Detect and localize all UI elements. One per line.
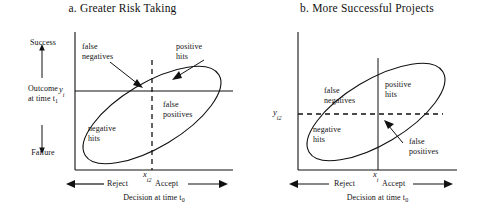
panel-a-label-positive-hits: positive hits [176,42,202,61]
panel-a-reject-label: Reject [107,179,128,189]
panel-b: b. More Successful Projects [245,0,489,219]
panel-a-label-false-negatives: false negatives [82,42,113,61]
panel-b-x-tick-label: xi [373,169,378,181]
panel-b-plot [245,0,489,219]
panel-a-x-axis-title: Decision at time t0 [75,193,233,204]
panel-a-x-tick-sub: i2 [147,177,152,183]
panel-a-y-axis-title-line1: Outcome [28,84,58,93]
panel-b-arrow-false-positives [384,120,403,143]
panel-a-x-tick-label: xi2 [143,169,151,181]
panel-a-success-label: Success [20,38,66,48]
panel-a: a. Greater Risk Taking [0,0,245,219]
panel-a-y-axis-title-line2: at time t [28,94,55,103]
panel-a-x-axis-title-sub: 0 [182,197,185,203]
panel-a-arrow-false-negatives [110,62,143,88]
panel-b-x-axis-title-text: Decision at time t [347,193,405,202]
panel-b-accept-label: Accept [382,179,405,189]
panel-b-label-false-negatives: false negatives [324,86,355,105]
panel-b-label-false-positives: false positives [409,137,438,156]
panel-b-ellipse [293,44,460,179]
panel-b-label-positive-hits: positive hits [385,80,411,99]
panel-b-reject-label: Reject [334,179,355,189]
panel-a-x-axis-title-text: Decision at time t [123,193,181,202]
panel-a-y-tick-label: yi [59,84,64,96]
panel-a-label-negative-hits: negative hits [88,124,116,143]
panel-b-y-tick-label: yi2 [273,107,281,119]
panel-b-label-negative-hits: negative hits [313,125,341,144]
panel-b-x-axis-title-sub: 0 [405,197,408,203]
panel-b-x-direction-arrows [289,180,453,188]
figure-root: a. Greater Risk Taking [0,0,489,219]
panel-a-failure-label: Failure [20,148,66,158]
panel-b-y-tick-sub: i2 [277,115,282,121]
panel-a-label-false-positives: false positives [163,100,192,119]
panel-a-y-axis-title-sub: 1 [55,98,58,104]
panel-a-accept-label: Accept [155,179,178,189]
panel-b-x-axis-title: Decision at time t0 [298,193,457,204]
